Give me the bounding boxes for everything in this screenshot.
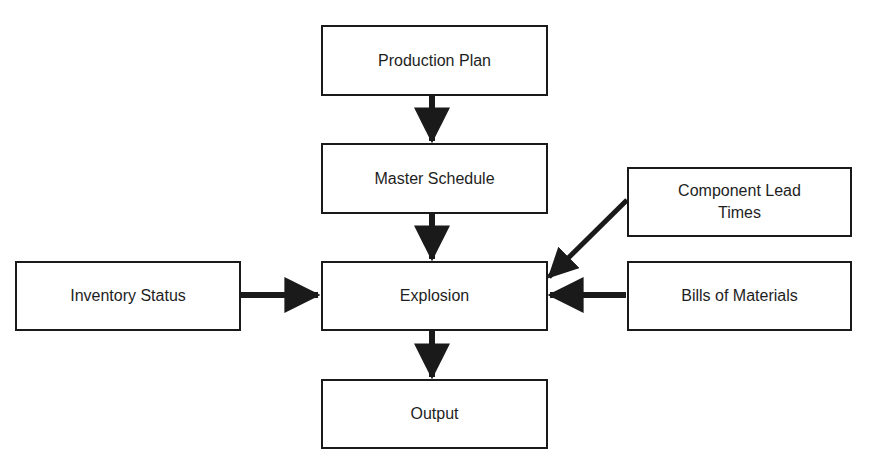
node-label: Component Lead Times: [669, 180, 810, 224]
node-inventory-status: Inventory Status: [15, 261, 241, 331]
node-label: Output: [410, 403, 458, 425]
node-production-plan: Production Plan: [321, 25, 548, 96]
node-component-lead-times: Component Lead Times: [627, 167, 852, 237]
node-output: Output: [321, 379, 548, 449]
node-label: Inventory Status: [70, 285, 186, 307]
node-master-schedule: Master Schedule: [321, 143, 548, 214]
node-label: Master Schedule: [374, 168, 494, 190]
mrp-flow-diagram: Production Plan Master Schedule Explosio…: [0, 0, 872, 465]
node-label: Explosion: [400, 285, 469, 307]
node-bills-of-materials: Bills of Materials: [627, 261, 852, 331]
node-label: Bills of Materials: [681, 285, 797, 307]
node-label: Production Plan: [378, 50, 491, 72]
arrow-leadtimes-to-explosion: [549, 200, 627, 277]
node-explosion: Explosion: [321, 261, 548, 331]
